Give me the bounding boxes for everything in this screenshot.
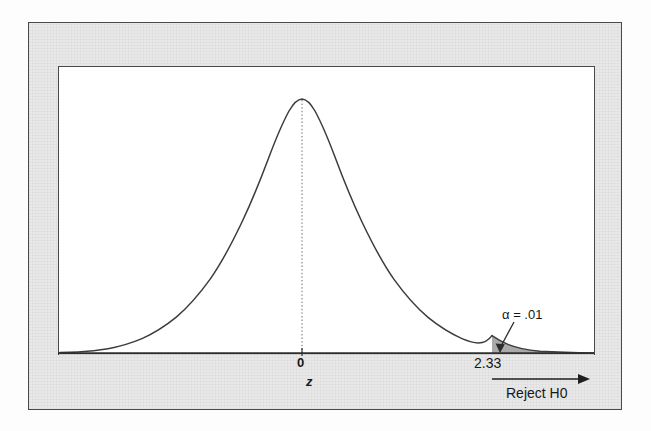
axis-variable-label: z bbox=[306, 375, 313, 388]
axis-tick-label-zero: 0 bbox=[297, 356, 304, 369]
critical-value-label: 2.33 bbox=[474, 356, 501, 370]
reject-null-label: Reject H0 bbox=[506, 386, 567, 400]
alpha-level-label: α = .01 bbox=[502, 308, 542, 321]
figure-container: 0 z 2.33 α = .01 Reject H0 bbox=[0, 0, 651, 431]
